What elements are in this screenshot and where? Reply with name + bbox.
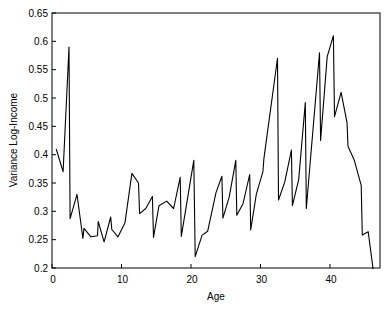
x-tick-label: 0 — [50, 274, 56, 285]
y-tick-label: 0.2 — [34, 263, 48, 274]
y-tick-label: 0.25 — [29, 234, 49, 245]
x-axis-title: Age — [207, 291, 225, 302]
x-tick-label: 30 — [256, 274, 268, 285]
x-tick-label: 10 — [117, 274, 129, 285]
plot-frame — [52, 13, 380, 268]
variance-log-income-line — [56, 36, 373, 269]
y-tick-label: 0.3 — [34, 206, 48, 217]
y-tick-label: 0.55 — [29, 64, 49, 75]
y-tick-label: 0.4 — [34, 149, 48, 160]
y-tick-label: 0.65 — [29, 8, 49, 19]
plot-border — [52, 13, 380, 268]
y-tick-label: 0.5 — [34, 93, 48, 104]
y-axis-title: Variance Log-Income — [8, 92, 19, 187]
y-tick-label: 0.6 — [34, 36, 48, 47]
y-tick-label: 0.45 — [29, 121, 49, 132]
y-tick-label: 0.35 — [29, 178, 49, 189]
x-axis: 010203040 — [50, 264, 337, 285]
x-tick-label: 20 — [186, 274, 198, 285]
line-chart: 0.20.250.30.350.40.450.50.550.60.65 0102… — [0, 0, 390, 312]
x-tick-label: 40 — [325, 274, 337, 285]
